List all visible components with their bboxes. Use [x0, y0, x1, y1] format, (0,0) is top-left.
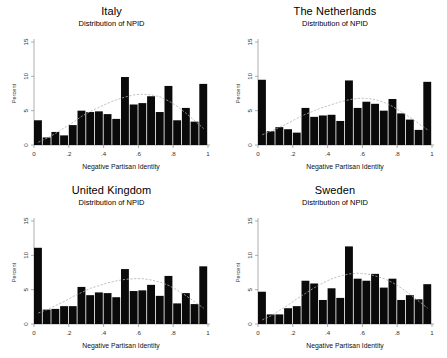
y-tick-label: 5: [22, 287, 29, 291]
histogram-bar: [258, 292, 266, 324]
x-tick-label: 1: [430, 329, 434, 336]
histogram-bar: [51, 309, 59, 324]
histogram-bar: [60, 135, 68, 145]
histogram-bar: [69, 306, 77, 324]
histogram-bar: [380, 288, 388, 324]
x-tick-label: .2: [290, 150, 296, 157]
histogram-bar: [328, 115, 336, 145]
histogram-bar: [51, 132, 59, 145]
x-axis-title: Negative Partisan Identity: [306, 342, 384, 350]
chart-panel-netherlands: The NetherlandsDistribution of NPID05101…: [223, 0, 447, 179]
x-tick-label: .8: [395, 150, 401, 157]
histogram-bar: [156, 296, 164, 324]
x-tick-label: .8: [171, 329, 177, 336]
histogram-bar: [406, 295, 414, 324]
chart-panel-united-kingdom: United KingdomDistribution of NPID051015…: [0, 179, 223, 358]
histogram-bar: [138, 103, 146, 145]
histogram-bar: [173, 303, 181, 324]
histogram-bar: [284, 308, 292, 324]
histogram-bar: [397, 300, 405, 324]
histogram-bar: [86, 295, 94, 324]
histogram-bar: [354, 108, 362, 145]
histogram-bar: [199, 266, 207, 324]
histogram-bar: [165, 86, 173, 145]
x-axis-title: Negative Partisan Identity: [306, 163, 384, 171]
plot-area: 0510150.2.4.6.81PercentNegative Partisan…: [223, 179, 447, 358]
histogram-bar: [95, 111, 103, 145]
histogram-bar: [165, 276, 173, 324]
y-tick-label: 10: [246, 251, 253, 258]
histogram-bar: [406, 120, 414, 145]
y-tick-label: 0: [246, 143, 253, 147]
x-tick-label: .6: [136, 150, 142, 157]
x-tick-label: .6: [136, 329, 142, 336]
y-tick-label: 10: [22, 72, 29, 79]
x-tick-label: .4: [325, 329, 331, 336]
histogram-bar: [345, 246, 353, 324]
histogram-bar: [34, 248, 42, 324]
y-tick-label: 0: [246, 322, 253, 326]
histogram-bar: [34, 120, 42, 145]
histogram-bar: [156, 112, 164, 145]
chart-panel-italy: ItalyDistribution of NPID0510150.2.4.6.8…: [0, 0, 223, 179]
y-tick-label: 10: [22, 251, 29, 258]
plot-area: 0510150.2.4.6.81PercentNegative Partisan…: [0, 179, 223, 358]
y-tick-label: 0: [22, 322, 29, 326]
histogram-bar: [95, 292, 103, 324]
x-tick-label: 0: [256, 150, 260, 157]
x-axis-title: Negative Partisan Identity: [82, 342, 160, 350]
x-tick-label: .4: [101, 329, 107, 336]
histogram-bar: [336, 121, 344, 145]
histogram-bar: [423, 284, 431, 324]
y-tick-label: 5: [246, 108, 253, 112]
chart-panel-sweden: SwedenDistribution of NPID0510150.2.4.6.…: [223, 179, 447, 358]
histogram-bar: [380, 111, 388, 145]
histogram-bar: [302, 281, 310, 324]
x-tick-label: .4: [101, 150, 107, 157]
y-tick-label: 15: [246, 38, 253, 45]
histogram-bar: [86, 112, 94, 145]
histogram-bar: [267, 131, 275, 145]
y-axis-title: Percent: [11, 83, 17, 103]
x-tick-label: .2: [66, 329, 72, 336]
y-axis-title: Percent: [11, 262, 17, 282]
x-tick-label: .8: [395, 329, 401, 336]
histogram-bar: [130, 104, 138, 145]
y-axis-title: Percent: [235, 262, 241, 282]
histogram-bar: [138, 290, 146, 324]
histogram-bar: [130, 291, 138, 324]
x-tick-label: .4: [325, 150, 331, 157]
histogram-bar: [147, 96, 155, 145]
y-tick-label: 10: [246, 72, 253, 79]
histogram-bar: [43, 310, 51, 324]
histogram-bar: [423, 82, 431, 145]
plot-area: 0510150.2.4.6.81PercentNegative Partisan…: [223, 0, 447, 179]
histogram-bar: [362, 102, 370, 145]
histogram-bar: [284, 129, 292, 145]
histogram-bar: [60, 306, 68, 324]
y-tick-label: 5: [22, 108, 29, 112]
x-tick-label: 0: [32, 329, 36, 336]
histogram-bar: [258, 80, 266, 145]
x-tick-label: 0: [32, 150, 36, 157]
y-tick-label: 15: [22, 217, 29, 224]
x-tick-label: .6: [360, 150, 366, 157]
histogram-bar: [354, 279, 362, 324]
histogram-bar: [371, 274, 379, 324]
y-tick-label: 15: [22, 38, 29, 45]
histogram-bar: [173, 120, 181, 145]
histogram-bar: [336, 298, 344, 324]
histogram-bar: [191, 304, 199, 324]
histogram-bar: [293, 133, 301, 145]
x-tick-label: .2: [290, 329, 296, 336]
x-tick-label: 1: [206, 329, 210, 336]
histogram-bar: [371, 104, 379, 145]
histogram-bar: [121, 269, 129, 324]
histogram-bar: [389, 279, 397, 324]
x-tick-label: .2: [66, 150, 72, 157]
x-axis-title: Negative Partisan Identity: [82, 163, 160, 171]
x-tick-label: .8: [171, 150, 177, 157]
histogram-bar: [104, 293, 112, 324]
histogram-bar: [319, 115, 327, 145]
histogram-bar: [147, 285, 155, 324]
